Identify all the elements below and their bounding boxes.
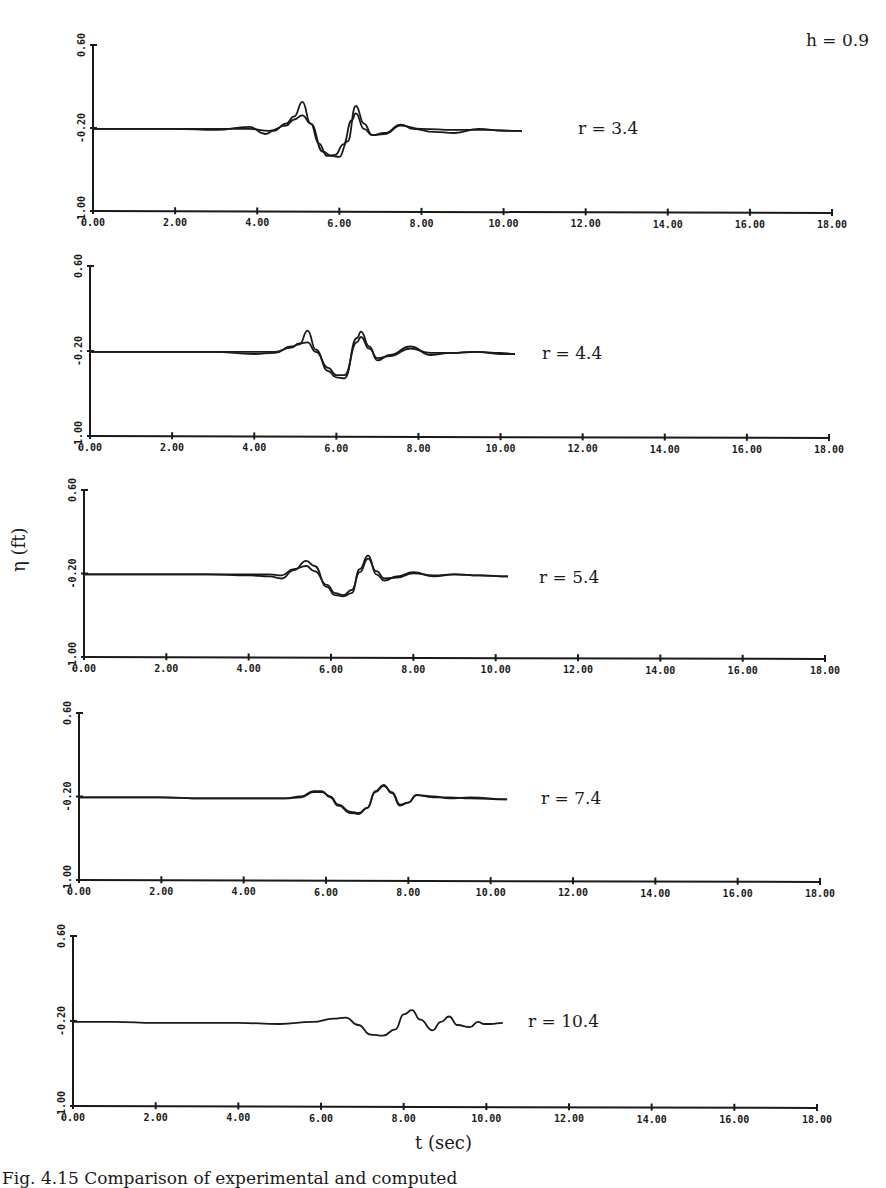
x-tick-label: 2.00 — [160, 442, 184, 453]
x-tick-label: 12.00 — [563, 664, 593, 675]
x-tick-label: 6.00 — [324, 443, 348, 454]
x-tick-label: 14.00 — [645, 665, 675, 676]
subplot-4: -1.00-0.200.600.002.004.006.008.0010.001… — [56, 924, 832, 1125]
x-axis-label: t (sec) — [415, 1132, 472, 1153]
x-tick-label: 16.00 — [719, 1114, 749, 1125]
series-measured — [84, 556, 508, 597]
x-tick-label: 8.00 — [396, 887, 420, 898]
x-tick-label: 16.00 — [723, 888, 753, 899]
subplot-1: -1.00-0.200.600.002.004.006.008.0010.001… — [73, 254, 844, 455]
y-tick-label: 0.60 — [73, 254, 84, 278]
x-tick-label: 4.00 — [242, 442, 266, 453]
x-tick-label: 6.00 — [314, 887, 338, 898]
x-axis-line — [73, 1106, 817, 1108]
y-tick-label: 0.60 — [56, 924, 67, 948]
x-tick-label: 10.00 — [481, 664, 511, 675]
x-tick-label: 6.00 — [319, 664, 343, 675]
x-tick-label: 8.00 — [409, 218, 433, 229]
x-axis-line — [84, 657, 825, 659]
series-computed — [90, 337, 515, 375]
series-computed — [73, 1010, 503, 1035]
x-axis-line — [79, 880, 820, 882]
y-axis-label: η (ft) — [8, 528, 29, 572]
x-tick-label: 4.00 — [226, 1112, 250, 1123]
series-computed — [93, 113, 522, 156]
x-tick-label: 12.00 — [568, 443, 598, 454]
x-tick-label: 14.00 — [640, 888, 670, 899]
x-tick-label: 8.00 — [406, 443, 430, 454]
subplot-3: -1.00-0.200.600.002.004.006.008.0010.001… — [62, 701, 835, 899]
y-tick-label: 0.60 — [62, 701, 73, 725]
x-tick-label: 6.00 — [327, 218, 351, 229]
x-tick-label: 18.00 — [802, 1114, 832, 1125]
subplot-2: -1.00-0.200.600.002.004.006.008.0010.001… — [67, 478, 840, 676]
series-computed — [84, 559, 508, 596]
subplot-label-r44: r = 4.4 — [542, 343, 602, 363]
x-tick-label: 10.00 — [486, 443, 516, 454]
series-computed — [79, 786, 507, 813]
x-tick-label: 4.00 — [237, 663, 261, 674]
x-tick-label: 0.00 — [67, 886, 91, 897]
series-measured — [90, 331, 515, 379]
x-tick-label: 2.00 — [149, 886, 173, 897]
x-tick-label: 2.00 — [154, 663, 178, 674]
x-tick-label: 4.00 — [245, 217, 269, 228]
y-tick-label: -0.20 — [76, 113, 87, 143]
x-tick-label: 18.00 — [805, 888, 835, 899]
x-tick-label: 10.00 — [471, 1113, 501, 1124]
x-axis-line — [90, 436, 829, 438]
x-tick-label: 0.00 — [81, 217, 105, 228]
x-tick-label: 10.00 — [476, 887, 506, 898]
y-tick-label: -0.20 — [73, 336, 84, 366]
y-tick-label: 0.60 — [76, 33, 87, 57]
x-tick-label: 16.00 — [735, 219, 765, 230]
x-tick-label: 6.00 — [309, 1113, 333, 1124]
x-tick-label: 0.00 — [72, 663, 96, 674]
x-tick-label: 8.00 — [401, 664, 425, 675]
subplot-label-r34: r = 3.4 — [578, 118, 638, 138]
figure-caption: Fig. 4.15 Comparison of experimental and… — [2, 1168, 457, 1188]
y-tick-label: -0.20 — [62, 781, 73, 811]
x-tick-label: 0.00 — [78, 442, 102, 453]
x-tick-label: 10.00 — [489, 218, 519, 229]
subplots: -1.00-0.200.600.002.004.006.008.0010.001… — [56, 33, 847, 1125]
x-tick-label: 16.00 — [732, 444, 762, 455]
y-tick-label: -0.20 — [67, 558, 78, 588]
y-tick-label: -0.20 — [56, 1006, 67, 1036]
x-tick-label: 2.00 — [144, 1112, 168, 1123]
x-axis-line — [93, 211, 832, 213]
subplot-label-r54: r = 5.4 — [539, 567, 599, 587]
x-tick-label: 16.00 — [728, 665, 758, 676]
x-tick-label: 14.00 — [653, 219, 683, 230]
x-tick-label: 12.00 — [554, 1113, 584, 1124]
series-measured — [79, 785, 507, 814]
subplot-label-r74: r = 7.4 — [541, 788, 601, 808]
depth-label: h = 0.9 — [806, 30, 869, 50]
subplot-label-r104: r = 10.4 — [528, 1011, 599, 1031]
x-tick-label: 14.00 — [637, 1114, 667, 1125]
subplot-0: -1.00-0.200.600.002.004.006.008.0010.001… — [76, 33, 847, 230]
y-tick-label: 0.60 — [67, 478, 78, 502]
x-tick-label: 18.00 — [817, 219, 847, 230]
x-tick-label: 2.00 — [163, 217, 187, 228]
x-tick-label: 4.00 — [232, 886, 256, 897]
x-tick-label: 18.00 — [814, 444, 844, 455]
x-tick-label: 12.00 — [558, 887, 588, 898]
x-tick-label: 18.00 — [810, 665, 840, 676]
x-tick-label: 0.00 — [61, 1112, 85, 1123]
x-tick-label: 14.00 — [650, 444, 680, 455]
x-tick-label: 8.00 — [392, 1113, 416, 1124]
x-tick-label: 12.00 — [571, 218, 601, 229]
